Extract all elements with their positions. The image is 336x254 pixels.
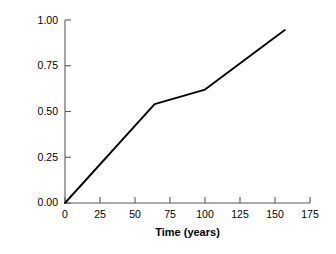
figure-canvas: Surface reduction Time (years) 1.00 0.75… xyxy=(0,0,336,254)
data-series-line xyxy=(65,30,285,203)
plot-area xyxy=(0,0,336,254)
y-tick-marks xyxy=(65,20,71,203)
x-tick-marks xyxy=(65,197,310,203)
